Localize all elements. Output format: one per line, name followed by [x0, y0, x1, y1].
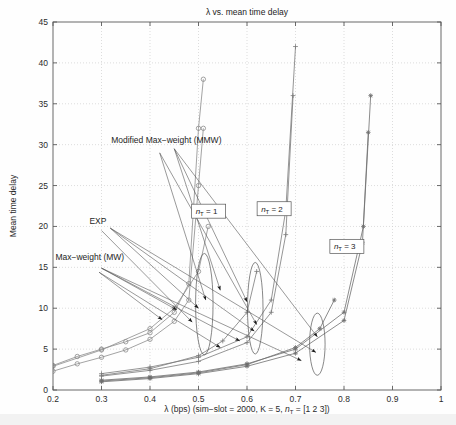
y-tick-label: 30	[39, 140, 49, 150]
x-tick-label: 0.6	[241, 394, 253, 404]
window-bottom-bar	[0, 414, 456, 425]
marker-star	[342, 318, 347, 323]
y-tick-label: 10	[39, 303, 49, 313]
svg-text:nT = 1: nT = 1	[196, 207, 218, 217]
y-tick-label: 0	[43, 385, 48, 395]
leader-arrow-10	[102, 268, 240, 341]
leader-arrow-12	[99, 272, 162, 319]
marker-star	[317, 326, 322, 331]
mmw-label: Modified Max−weight (MMW)	[111, 135, 221, 145]
svg-text:nT = 2: nT = 2	[261, 205, 283, 215]
annotation-arrows	[99, 149, 317, 361]
ellipse-group-nt3	[310, 313, 326, 375]
marker-plus	[254, 269, 259, 274]
axis-ticks: 0.20.30.40.50.60.70.80.91051015202530354…	[39, 17, 444, 404]
y-tick-label: 35	[39, 99, 49, 109]
marker-star	[366, 130, 371, 135]
x-tick-label: 0.4	[144, 394, 156, 404]
series-mmw-n-t-3	[99, 130, 370, 384]
svg-text:nT = 3: nT = 3	[334, 242, 356, 252]
y-tick-label: 45	[39, 17, 49, 27]
marker-plus	[196, 359, 201, 364]
x-tick-label: 0.3	[96, 394, 108, 404]
x-tick-label: 0.7	[290, 394, 302, 404]
marker-plus	[293, 44, 298, 49]
chart-canvas: 0.20.30.40.50.60.70.80.91051015202530354…	[0, 0, 456, 425]
marker-star	[368, 93, 373, 98]
x-tick-label: 0.5	[193, 394, 205, 404]
y-tick-label: 15	[39, 262, 49, 272]
boxed-label-nt3: nT = 3	[330, 239, 364, 253]
marker-star	[245, 362, 250, 367]
marker-star	[293, 345, 298, 350]
mw-label: Max−weight (MW)	[55, 252, 124, 262]
leader-arrow-4	[160, 153, 257, 325]
leader-arrow-6	[110, 228, 254, 331]
y-axis-label: Mean time delay	[8, 174, 18, 237]
y-tick-label: 25	[39, 181, 49, 191]
group-ellipses	[196, 253, 325, 375]
marker-star	[196, 371, 201, 376]
x-tick-label: 0.2	[47, 394, 59, 404]
series-mw-n-t-1	[51, 224, 211, 368]
y-tick-label: 20	[39, 221, 49, 231]
exp-label: EXP	[89, 216, 106, 226]
boxed-labels: nT = 1nT = 2nT = 3	[192, 202, 364, 254]
y-tick-label: 5	[43, 344, 48, 354]
marker-star	[99, 379, 104, 384]
leader-arrow-1	[174, 149, 247, 302]
y-tick-label: 40	[39, 58, 49, 68]
marker-star	[148, 375, 153, 380]
x-tick-label: 0.9	[387, 394, 399, 404]
marker-plus	[291, 93, 296, 98]
boxed-label-nt1: nT = 1	[192, 204, 226, 218]
chart-title: λ vs. mean time delay	[206, 7, 289, 17]
marker-plus	[283, 232, 288, 237]
boxed-label-nt2: nT = 2	[257, 202, 291, 216]
figure-container: 0.20.30.40.50.60.70.80.91051015202530354…	[0, 0, 456, 425]
series-mmw-n-t-1	[51, 126, 206, 373]
x-tick-label: 1	[439, 394, 444, 404]
marker-star	[293, 351, 298, 356]
marker-star	[332, 298, 337, 303]
x-tick-label: 0.8	[338, 394, 350, 404]
